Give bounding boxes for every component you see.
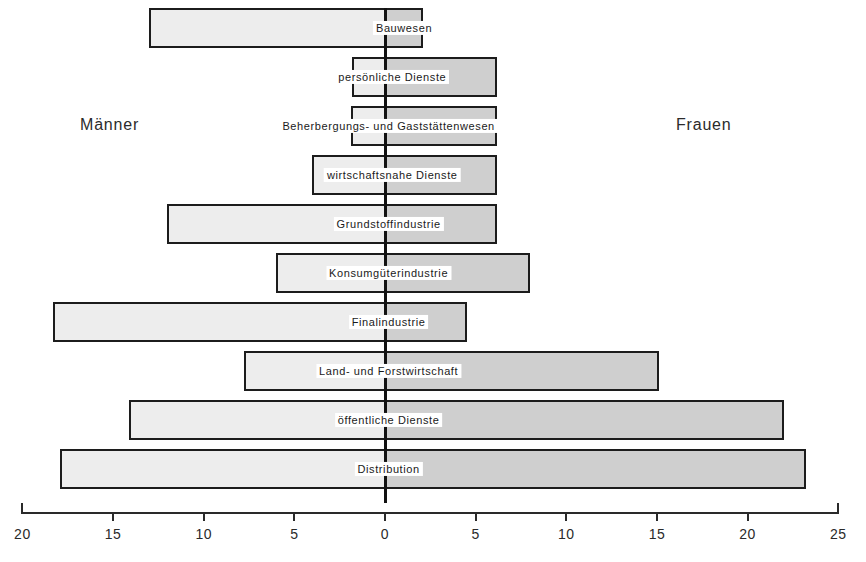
bar-segment-male	[55, 304, 385, 340]
population-pyramid-chart: Bauwesenpersönliche DiensteBeherbergungs…	[0, 0, 866, 562]
x-axis: 20151050510152025	[0, 512, 866, 562]
bar-segment-male	[151, 10, 385, 46]
axis-tick	[837, 503, 839, 514]
bar-row: Land- und Forstwirtschaft	[0, 351, 866, 391]
axis-tick	[747, 512, 749, 521]
axis-tick	[475, 512, 477, 521]
axis-tick-label: 25	[830, 526, 847, 542]
axis-tick-label: 5	[471, 526, 479, 542]
bar-segment-female	[385, 451, 804, 487]
bar-category-label: Distribution	[355, 462, 423, 476]
axis-tick-label: 20	[14, 526, 31, 542]
axis-tick-label: 0	[381, 526, 389, 542]
axis-tick	[293, 512, 295, 521]
bar-category-label: Konsumgüterindustrie	[326, 266, 451, 280]
bar-row: Finalindustrie	[0, 302, 866, 342]
bar-category-label: Bauwesen	[373, 21, 435, 35]
axis-tick-label: 15	[105, 526, 122, 542]
bar-row: Distribution	[0, 449, 866, 489]
bar-category-label: persönliche Dienste	[335, 70, 449, 84]
bar-segment-female	[385, 402, 782, 438]
axis-tick-label: 20	[739, 526, 756, 542]
bar-row: wirtschaftsnahe Dienste	[0, 155, 866, 195]
bar-category-label: öffentliche Dienste	[335, 413, 443, 427]
axis-tick	[656, 512, 658, 521]
axis-tick-label: 15	[649, 526, 666, 542]
bar-row: Grundstoffindustrie	[0, 204, 866, 244]
bar-segment-male	[62, 451, 385, 487]
bar-row: Konsumgüterindustrie	[0, 253, 866, 293]
bar-row: persönliche Dienste	[0, 57, 866, 97]
bar-outline	[129, 400, 783, 440]
axis-tick	[112, 512, 114, 521]
chart-plot-area: Bauwesenpersönliche DiensteBeherbergungs…	[0, 0, 866, 512]
bar-outline	[167, 204, 497, 244]
axis-tick-label: 10	[558, 526, 575, 542]
bar-category-label: Land- und Forstwirtschaft	[316, 364, 461, 378]
bar-category-label: wirtschaftsnahe Dienste	[324, 168, 461, 182]
axis-baseline	[22, 512, 838, 514]
axis-tick-label: 5	[290, 526, 298, 542]
female-side-caption: Frauen	[676, 116, 732, 134]
axis-tick	[565, 512, 567, 521]
male-side-caption: Männer	[80, 116, 139, 134]
axis-tick	[203, 512, 205, 521]
bar-row: Bauwesen	[0, 8, 866, 48]
bar-category-label: Finalindustrie	[349, 315, 429, 329]
axis-tick	[21, 503, 23, 514]
bar-category-label: Grundstoffindustrie	[334, 217, 444, 231]
bar-category-label: Beherbergungs- und Gaststättenwesen	[279, 119, 497, 133]
axis-tick-label: 10	[195, 526, 212, 542]
bar-row: öffentliche Dienste	[0, 400, 866, 440]
axis-tick	[384, 512, 386, 521]
bar-outline	[60, 449, 805, 489]
